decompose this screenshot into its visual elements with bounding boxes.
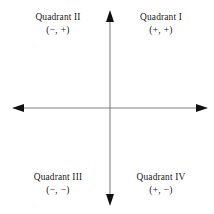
quadrant-1-label: Quadrant I (+, +) — [112, 11, 210, 36]
quadrant-1-signs: (+, +) — [112, 24, 210, 37]
quadrant-4-label: Quadrant IV (+, −) — [112, 171, 210, 196]
quadrant-3-name: Quadrant III — [6, 171, 110, 184]
quadrant-2-label: Quadrant II (−, +) — [6, 11, 110, 36]
quadrant-4-signs: (+, −) — [112, 184, 210, 197]
quadrant-4-name: Quadrant IV — [112, 171, 210, 184]
x-axis-left-arrow-icon — [12, 104, 24, 112]
quadrant-2-name: Quadrant II — [6, 11, 110, 24]
x-axis-right-arrow-icon — [196, 104, 208, 112]
quadrant-3-label: Quadrant III (−, −) — [6, 171, 110, 196]
quadrant-3-signs: (−, −) — [6, 184, 110, 197]
quadrant-diagram: Quadrant II (−, +) Quadrant I (+, +) Qua… — [0, 0, 214, 214]
quadrant-1-name: Quadrant I — [112, 11, 210, 24]
quadrant-2-signs: (−, +) — [6, 24, 110, 37]
